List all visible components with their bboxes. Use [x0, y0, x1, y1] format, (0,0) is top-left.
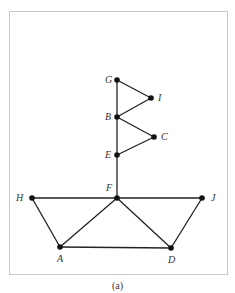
edge-B-C [117, 117, 154, 137]
node-G [114, 77, 120, 83]
node-label-B: B [105, 112, 111, 122]
node-label-E: E [105, 150, 111, 160]
node-label-J: J [211, 193, 215, 203]
node-A [57, 244, 63, 250]
edge-G-I [117, 80, 151, 98]
edge-J-D [171, 198, 202, 248]
node-label-I: I [158, 93, 161, 103]
node-label-D: D [168, 255, 175, 265]
edge-F-D [117, 198, 171, 248]
graph-edges [32, 80, 202, 248]
node-C [151, 134, 157, 140]
edge-H-A [32, 198, 60, 247]
figure-caption: (a) [0, 280, 235, 291]
edge-I-B [117, 98, 151, 117]
node-label-A: A [57, 254, 63, 264]
node-E [114, 152, 120, 158]
node-label-H: H [16, 193, 23, 203]
node-D [168, 245, 174, 251]
graph-canvas [0, 0, 235, 293]
node-H [29, 195, 35, 201]
node-I [148, 95, 154, 101]
node-label-C: C [161, 132, 168, 142]
edge-C-E [117, 137, 154, 155]
node-J [199, 195, 205, 201]
node-B [114, 114, 120, 120]
edge-A-D [60, 247, 171, 248]
node-label-G: G [105, 75, 112, 85]
node-label-F: F [106, 183, 112, 193]
node-F [114, 195, 120, 201]
edge-F-A [60, 198, 117, 247]
